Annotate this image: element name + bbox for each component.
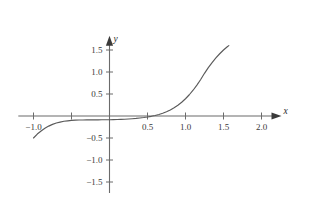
x-tick-label: 1.0	[180, 122, 191, 132]
x-tick-label: −1.0	[25, 122, 41, 132]
y-axis-arrowhead	[106, 36, 113, 46]
y-tick-label: −0.5	[0, 133, 103, 143]
y-tick-label: −1.0	[0, 155, 103, 165]
x-tick-label: 0.5	[142, 122, 153, 132]
x-tick-label: 1.5	[218, 122, 229, 132]
y-axis-label: y	[114, 34, 118, 44]
x-axis-label: x	[284, 106, 288, 116]
y-tick-label: 0.5	[0, 89, 103, 99]
y-tick-label: 1.0	[0, 67, 103, 77]
x-axis-arrowhead	[272, 112, 282, 119]
y-tick-label: −1.5	[0, 177, 103, 187]
x-tick-label: 2.0	[256, 122, 267, 132]
chart-figure: −1.00.51.01.52.01.51.00.5−0.5−1.0−1.5 x …	[0, 0, 314, 214]
axes-layer	[18, 36, 281, 193]
y-tick-label: 1.5	[0, 45, 103, 55]
